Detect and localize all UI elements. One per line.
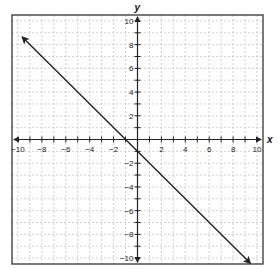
y-tick-label: 10	[125, 17, 134, 26]
x-tick-label: −8	[37, 145, 47, 154]
y-tick-label: 8	[129, 41, 134, 50]
x-tick-labels: −10−8−6−4−2246810	[11, 145, 262, 154]
x-tick-label: −6	[61, 145, 71, 154]
x-tick-label: −10	[11, 145, 25, 154]
y-tick-label: 4	[129, 88, 134, 97]
y-tick-label: −6	[124, 207, 134, 216]
y-tick-label: −2	[124, 159, 134, 168]
x-tick-label: 6	[207, 145, 212, 154]
y-tick-label: −8	[124, 230, 134, 239]
y-tick-label: −4	[124, 183, 134, 192]
y-axis-label: y	[134, 2, 141, 13]
x-tick-label: 8	[231, 145, 236, 154]
coordinate-plane: −10−8−6−4−2246810 −10−8−6−4−2246810 x y	[0, 0, 278, 268]
y-tick-label: 6	[129, 64, 134, 73]
x-tick-label: −4	[85, 145, 95, 154]
x-tick-label: 10	[253, 145, 262, 154]
x-axis-label: x	[266, 134, 273, 145]
axes	[14, 17, 261, 262]
plotted-line	[23, 38, 250, 263]
x-tick-label: 4	[183, 145, 188, 154]
x-tick-label: 2	[159, 145, 164, 154]
y-tick-label: −10	[120, 254, 134, 263]
line-series	[23, 38, 250, 263]
y-tick-label: 2	[129, 112, 134, 121]
x-tick-label: −2	[109, 145, 119, 154]
